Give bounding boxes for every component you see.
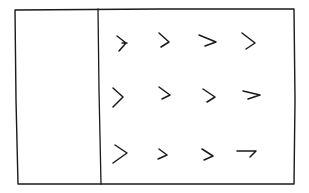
chevron-right-icon: [203, 89, 215, 102]
chevron-right-icon: [202, 149, 213, 160]
panel-divider: [98, 9, 101, 184]
chevron-right-icon: [199, 35, 216, 46]
left-panel: [17, 11, 97, 182]
chevron-right-icon: [113, 145, 127, 163]
chevron-right-icon: [117, 36, 127, 51]
chevron-right-icon: [113, 88, 123, 107]
chevron-right-icon: [242, 33, 255, 49]
right-panel: [113, 33, 260, 163]
wireframe-sketch: [0, 0, 309, 193]
chevron-right-icon: [158, 149, 167, 159]
chevron-right-icon: [243, 91, 260, 99]
chevron-right-icon: [159, 33, 169, 47]
chevron-right-icon: [159, 87, 170, 99]
hook-icon: [237, 151, 256, 157]
